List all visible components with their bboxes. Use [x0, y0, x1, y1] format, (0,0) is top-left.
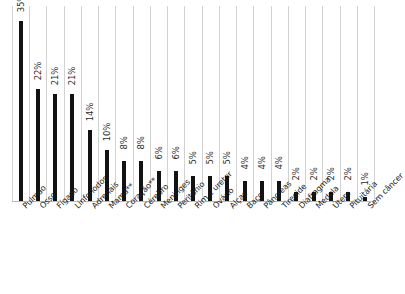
- bar-value-label: 8%: [136, 136, 146, 149]
- bar-value-label: 4%: [257, 157, 267, 170]
- plot-area: 35%22%21%21%14%10%8%8%6%6%5%5%5%4%4%4%2%…: [12, 6, 374, 202]
- bar-slot[interactable]: 2%: [305, 6, 322, 202]
- bar-value-label: 35%: [16, 0, 26, 13]
- bar-slot[interactable]: 6%: [167, 6, 184, 202]
- bar-value-label: 6%: [154, 147, 164, 160]
- bar-value-label: 4%: [240, 157, 250, 170]
- bar-slot[interactable]: 14%: [81, 6, 98, 202]
- bar-value-label: 2%: [291, 167, 301, 180]
- bar-slot[interactable]: 4%: [236, 6, 253, 202]
- bar-slot[interactable]: 8%: [115, 6, 132, 202]
- bar-slot[interactable]: 21%: [46, 6, 63, 202]
- x-axis-category-labels: PulmãoOssoFígadoLinfonodosAdrenaisMama**…: [12, 204, 374, 294]
- bar-value-label: 22%: [33, 61, 43, 79]
- bar-slot[interactable]: 4%: [253, 6, 270, 202]
- bar-value-label: 5%: [188, 152, 198, 165]
- bar-slot[interactable]: 4%: [271, 6, 288, 202]
- bar-value-label: 21%: [67, 67, 77, 85]
- bar[interactable]: [53, 94, 57, 202]
- bar-value-label: 5%: [205, 152, 215, 165]
- bar-slot[interactable]: 35%: [12, 6, 29, 202]
- bar-value-label: 8%: [119, 136, 129, 149]
- bar-value-label: 4%: [274, 157, 284, 170]
- bar-slot[interactable]: 2%: [322, 6, 339, 202]
- bar-slot[interactable]: 5%: [184, 6, 201, 202]
- bar-value-label: 2%: [309, 167, 319, 180]
- bar-value-label: 5%: [222, 152, 232, 165]
- bar-value-label: 14%: [85, 103, 95, 121]
- bar-slot[interactable]: 2%: [288, 6, 305, 202]
- bar-value-label: 21%: [50, 67, 60, 85]
- bar-slot[interactable]: 10%: [98, 6, 115, 202]
- bar-slot[interactable]: 8%: [133, 6, 150, 202]
- bar-slot[interactable]: 5%: [202, 6, 219, 202]
- bar-value-label: 6%: [171, 147, 181, 160]
- bar-slot[interactable]: 22%: [29, 6, 46, 202]
- bar-slot[interactable]: 6%: [150, 6, 167, 202]
- gridline: [374, 6, 375, 202]
- bar-slot[interactable]: 1%: [357, 6, 374, 202]
- bar[interactable]: [19, 21, 23, 202]
- bar-value-label: 2%: [343, 167, 353, 180]
- bar-slot[interactable]: 2%: [340, 6, 357, 202]
- bar-slot[interactable]: 21%: [64, 6, 81, 202]
- bar-value-label: 10%: [102, 123, 112, 141]
